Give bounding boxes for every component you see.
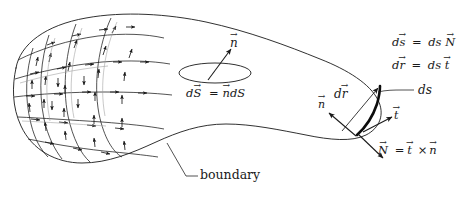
normal-boundary-symbol: n <box>318 98 325 111</box>
drv-rhs-t: t <box>445 58 450 72</box>
tangent-boundary-symbol: t <box>394 109 398 122</box>
area-element-ellipse <box>179 63 251 83</box>
drv-d: d <box>392 58 399 72</box>
dsv-s: s <box>399 35 405 49</box>
normal-boundary-label: → n <box>318 99 325 110</box>
equals-operator: = <box>205 86 223 100</box>
drv-rhs-ds: ds <box>428 58 441 72</box>
boundary-leader-line <box>167 143 198 176</box>
normal-vector-boundary <box>329 113 356 136</box>
dS-S: S <box>193 86 201 100</box>
circulation-arrows <box>26 26 149 154</box>
ds-arc-label: ds <box>418 84 432 96</box>
surface-element-equation: d → S = → n dS <box>186 88 245 100</box>
cp-t: t <box>407 143 412 157</box>
dr-vector-label: d → r <box>334 88 347 100</box>
dsv-rhs-ds: ds <box>428 35 441 49</box>
cross-product-equation: → N = → t × → n <box>378 145 437 157</box>
normal-center-symbol: n <box>230 36 238 50</box>
drv-r: r <box>399 58 405 72</box>
cp-N: N <box>378 143 388 157</box>
boundary-arc-ds <box>357 86 380 135</box>
cp-n: n <box>429 143 436 157</box>
equals-operator: = <box>409 58 425 72</box>
dS-rhs-n: n <box>223 86 230 100</box>
ds-vector-equation: d → s = ds → N <box>392 37 455 49</box>
boundary-label: boundary <box>200 169 260 182</box>
ds-leader-line <box>378 90 414 92</box>
mesh-shadow-curves <box>20 22 117 126</box>
normal-center-label: → n <box>230 37 238 49</box>
equals-operator: = <box>392 143 408 157</box>
tangent-boundary-label: → t <box>394 110 398 121</box>
cross-operator: × <box>416 143 430 157</box>
dr-label-d: d <box>334 87 342 101</box>
normal-vector-center <box>208 49 231 80</box>
dsv-d: d <box>392 35 399 49</box>
dS-d: d <box>186 86 193 100</box>
equals-operator: = <box>409 35 425 49</box>
dr-label-r: r <box>342 87 348 101</box>
mesh-grid <box>14 18 172 162</box>
dS-rhs-tail: dS <box>230 86 245 100</box>
dsv-rhs-N: N <box>445 35 455 49</box>
figure-root: → n d → S = → n dS d → s = ds → N d → r … <box>0 0 467 199</box>
dr-vector-equation: d → r = ds → t <box>392 60 449 72</box>
